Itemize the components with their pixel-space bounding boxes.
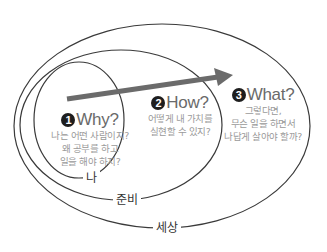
ring-label-preparation: 준비: [113, 193, 141, 207]
stage-what-line: 그렇다면,: [222, 104, 304, 117]
stage-why-line: 일을 해야 하지?: [44, 155, 136, 168]
stage-why-line: 왜 공부를 하고: [44, 142, 136, 155]
stage-why: 1Why? 나는 어떤 사람이지? 왜 공부를 하고 일을 해야 하지?: [44, 111, 136, 168]
stage-why-line: 나는 어떤 사람이지?: [44, 129, 136, 142]
stage-how-heading: 2How?: [140, 94, 220, 112]
ring-label-self: 나: [83, 171, 100, 185]
number-badge-icon: 2: [151, 96, 165, 110]
stage-what-line: 무슨 일을 하면서: [222, 117, 304, 130]
stage-what-title: What?: [247, 85, 295, 104]
stage-how-title: How?: [166, 93, 208, 112]
stage-what-line: 나답게 살아야 할까?: [222, 130, 304, 143]
stage-what-heading: 3What?: [222, 86, 304, 104]
stage-how-line: 실현할 수 있지?: [140, 125, 220, 138]
stage-why-heading: 1Why?: [44, 111, 136, 129]
stage-how: 2How? 어떻게 내 가치를 실현할 수 있지?: [140, 94, 220, 138]
stage-why-title: Why?: [76, 110, 118, 129]
number-badge-icon: 3: [232, 88, 246, 102]
number-badge-icon: 1: [61, 113, 75, 127]
stage-how-line: 어떻게 내 가치를: [140, 112, 220, 125]
stage-what: 3What? 그렇다면, 무슨 일을 하면서 나답게 살아야 할까?: [222, 86, 304, 143]
ring-label-world: 세상: [153, 221, 181, 235]
